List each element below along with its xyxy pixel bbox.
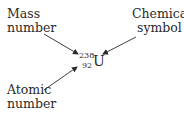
mass-number-arrow xyxy=(44,34,78,54)
arrows xyxy=(0,0,184,115)
chemical-symbol-arrow xyxy=(103,37,136,54)
atomic-number-arrow xyxy=(44,67,77,90)
